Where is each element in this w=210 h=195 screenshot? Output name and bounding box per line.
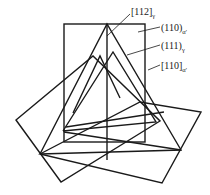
inner-triangle-111-gamma	[63, 52, 156, 131]
leader-111-gamma	[127, 45, 160, 55]
large-triangle	[40, 24, 181, 154]
label-111-gamma: (111)γ	[161, 40, 185, 53]
label-110-alpha-plane: (110)α'	[161, 22, 187, 35]
label-110-alpha-dir: [110]α'	[161, 60, 187, 73]
leader-110-alpha-dir	[148, 65, 160, 70]
label-112-gamma: [112]γ	[131, 6, 155, 19]
left-rotated-square	[16, 56, 160, 182]
leader-112-gamma	[107, 14, 130, 36]
cross-line-2	[64, 132, 181, 150]
leader-110-alpha-plane	[138, 27, 160, 32]
orientation-diagram: [112]γ (110)α' (111)γ [110]α'	[0, 0, 210, 195]
